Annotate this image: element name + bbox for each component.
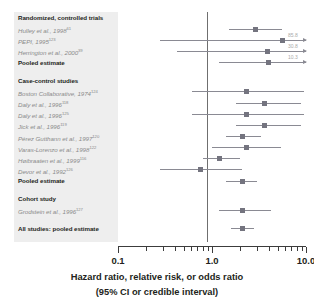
point-estimate-marker [244, 145, 249, 150]
axis-tick-minor [163, 247, 164, 250]
plot-row: All studies: pooled estimate [18, 223, 99, 234]
off-scale-upper-bound-label: 85.8 [288, 32, 298, 38]
axis-tick-minor [240, 247, 241, 250]
off-scale-arrow [303, 49, 307, 53]
point-estimate-marker [240, 208, 245, 213]
x-axis [118, 246, 306, 248]
plot-row: Daly et al., 1996118 [18, 97, 68, 108]
axis-tick-minor [291, 247, 292, 250]
section-heading: Cohort study [18, 193, 56, 204]
point-estimate-marker [198, 167, 203, 172]
axis-tick-minor [175, 247, 176, 250]
plot-row: Cohort study [18, 193, 56, 204]
null-reference-line [207, 12, 208, 242]
axis-tick-minor [297, 247, 298, 250]
reference-superscript: 119 [60, 122, 67, 127]
plot-row: Pooled estimate [18, 57, 65, 68]
axis-tick-minor [203, 247, 204, 250]
plot-row: PEPI, 1995123 [18, 34, 56, 45]
reference-superscript: 116 [80, 156, 87, 161]
plot-row: Hulley et al., 199861 [18, 23, 71, 34]
reference-superscript: 122 [89, 145, 96, 150]
pooled-estimate-label: All studies: pooled estimate [18, 223, 99, 234]
confidence-interval-line [219, 210, 270, 211]
reference-superscript: 61 [67, 26, 72, 31]
axis-tick-end [306, 247, 307, 253]
axis-tick-minor [285, 247, 286, 250]
reference-superscript: 125 [62, 111, 69, 116]
axis-tick-minor [257, 247, 258, 250]
plot-row: Jick et al., 1996119 [18, 119, 67, 130]
plot-row: Varas-Lorenzo et al., 1998122 [18, 142, 96, 153]
section-heading: Case-control studies [18, 75, 78, 86]
reference-superscript: 126 [66, 167, 73, 172]
x-axis-tick-label: 10.0 [297, 255, 314, 266]
x-axis-caption-line2: (95% CI or credible interval) [0, 287, 314, 297]
off-scale-arrow [303, 38, 307, 42]
study-label: Grodstein et al., 1996127 [18, 204, 83, 217]
axis-tick-minor [197, 247, 198, 250]
axis-tick-end [118, 247, 119, 253]
x-axis-caption-line1: Hazard ratio, relative risk, or odds rat… [0, 272, 314, 282]
forest-plot-figure: Randomized, controlled trialsHulley et a… [0, 0, 314, 308]
section-heading: Randomized, controlled trials [18, 12, 103, 23]
plot-row: Case-control studies [18, 75, 78, 86]
point-estimate-marker [240, 179, 245, 184]
confidence-interval-line [236, 103, 301, 104]
point-estimate-marker [240, 226, 245, 231]
plot-row: Devor et al., 1992126 [18, 164, 73, 175]
point-estimate-marker [262, 123, 267, 128]
axis-tick-minor [146, 247, 147, 250]
plot-row: Daly et al., 1996125 [18, 108, 69, 119]
point-estimate-marker [265, 49, 270, 54]
pooled-estimate-label: Pooled estimate [18, 175, 65, 186]
x-axis-tick-label: 1.0 [205, 255, 218, 266]
point-estimate-marker [244, 89, 249, 94]
point-estimate-marker [244, 112, 249, 117]
reference-superscript: 127 [76, 207, 83, 212]
pooled-estimate-label: Pooled estimate [18, 57, 65, 68]
plot-row: Grodstein et al., 1996127 [18, 204, 83, 215]
axis-tick-minor [184, 247, 185, 250]
confidence-interval-line [219, 62, 306, 63]
axis-tick-major [212, 247, 213, 253]
point-estimate-marker [262, 101, 267, 106]
plot-row: Pérez Gutthann et al., 1997120 [18, 131, 99, 142]
reference-superscript: 124 [91, 89, 98, 94]
axis-tick-minor [269, 247, 270, 250]
off-scale-arrow [303, 60, 307, 64]
point-estimate-marker [266, 60, 271, 65]
plot-row: Randomized, controlled trials [18, 12, 103, 23]
point-estimate-marker [280, 38, 285, 43]
axis-tick-minor [302, 247, 303, 250]
reference-superscript: 120 [92, 134, 99, 139]
point-estimate-marker [217, 156, 222, 161]
plot-area: 85.830.810.3 [118, 12, 306, 242]
point-estimate-marker [240, 134, 245, 139]
confidence-interval-line [177, 51, 306, 52]
plot-row: Pooled estimate [18, 175, 65, 186]
plot-row: Herrington et al., 200039 [18, 45, 83, 56]
plot-row: Høibraaten et al., 1999116 [18, 153, 86, 164]
axis-tick-minor [191, 247, 192, 250]
confidence-interval-line [236, 125, 301, 126]
plot-row: Boston Collaborative, 1974124 [18, 86, 98, 97]
reference-superscript: 39 [78, 48, 83, 53]
axis-tick-minor [208, 247, 209, 250]
reference-superscript: 118 [62, 100, 69, 105]
off-scale-upper-bound-label: 30.8 [288, 43, 298, 49]
off-scale-upper-bound-label: 10.3 [288, 54, 298, 60]
x-axis-tick-label: 0.1 [111, 255, 124, 266]
axis-tick-minor [278, 247, 279, 250]
point-estimate-marker [253, 27, 258, 32]
reference-superscript: 123 [49, 37, 56, 42]
